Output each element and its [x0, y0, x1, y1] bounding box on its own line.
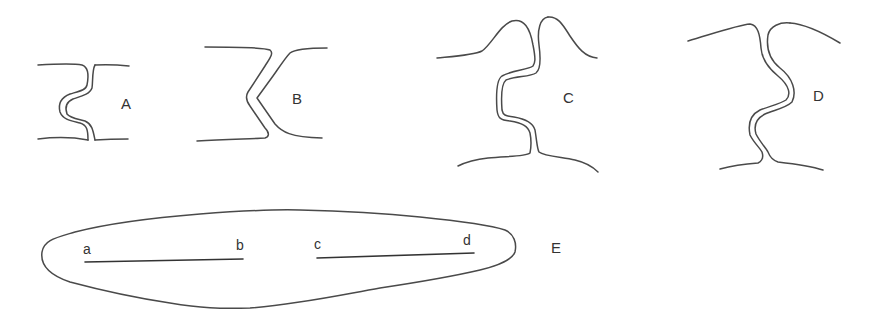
panel-e: a b c d E	[42, 210, 561, 309]
panel-c: C	[437, 17, 598, 172]
point-c-label: c	[314, 236, 321, 252]
point-b-label: b	[236, 237, 244, 253]
panel-a-label: A	[121, 95, 131, 112]
panel-b-label: B	[292, 90, 302, 107]
panel-d: D	[688, 23, 840, 170]
point-a-label: a	[83, 241, 91, 257]
diagram-figure: A B C D a b c d E	[0, 0, 875, 321]
panel-b: B	[197, 47, 327, 141]
panel-e-label: E	[551, 239, 561, 256]
segment-ab	[85, 259, 243, 262]
panel-c-label: C	[563, 89, 574, 106]
segment-cd	[317, 253, 474, 258]
panel-a: A	[38, 64, 131, 140]
point-d-label: d	[463, 232, 471, 248]
panel-d-label: D	[813, 87, 824, 104]
